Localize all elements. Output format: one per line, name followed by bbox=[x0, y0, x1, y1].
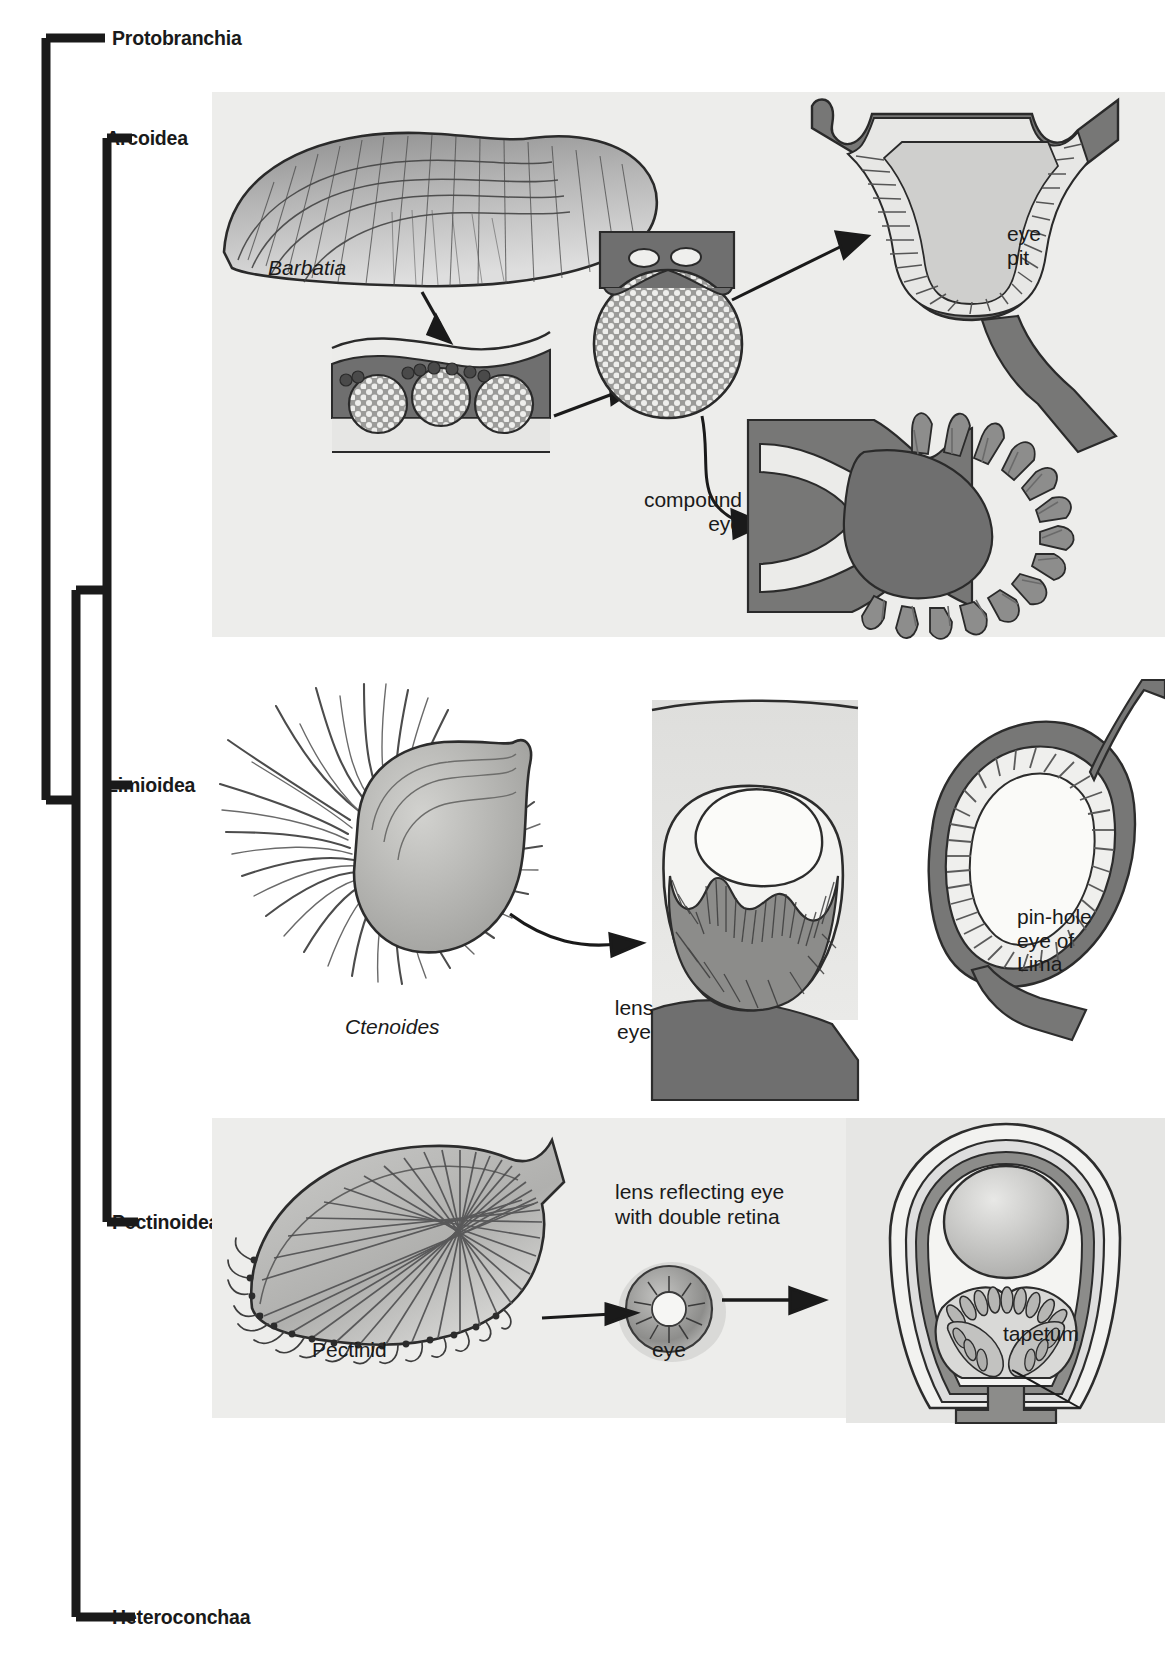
taxon-label-heteroconchaa: Heteroconchaa bbox=[112, 1606, 250, 1629]
figure-canvas: Protobranchia Arcoidea Limioidea Pectino… bbox=[0, 0, 1165, 1668]
taxon-label-pectinoidea: Pectinoidea bbox=[112, 1211, 219, 1234]
taxon-label-protobranchia: Protobranchia bbox=[112, 27, 242, 50]
pinhole-eye-label: pin-hole eye of Lima bbox=[1017, 905, 1092, 976]
barbatia-label: Barbatia bbox=[268, 256, 346, 280]
file-clam-illustration bbox=[220, 684, 542, 984]
ctenoides-label: Ctenoides bbox=[345, 1015, 440, 1039]
arrow-eye-to-section bbox=[722, 1288, 824, 1313]
eye-pit-cross-section bbox=[812, 100, 1118, 453]
lens-eye-label: lens eye bbox=[594, 996, 674, 1043]
compound-eye-cross-section bbox=[748, 413, 1074, 639]
arrow-ctenoides-to-lenseye bbox=[510, 914, 642, 956]
pinhole-eye-label-text: pin-hole eye of Lima bbox=[1017, 905, 1092, 975]
tapetum-label: tapetum bbox=[1003, 1322, 1079, 1346]
pectinid-label: Pectinid bbox=[312, 1338, 387, 1362]
lens-reflecting-eye-label: lens reflecting eye with double retina bbox=[615, 1180, 784, 1230]
eye-pit-label: eye pit bbox=[1007, 222, 1041, 269]
mantle-cross-section-with-eyes bbox=[332, 332, 550, 452]
scallop-eye-label: eye bbox=[652, 1338, 686, 1362]
compound-eye-surface-illustration bbox=[594, 232, 742, 418]
pinhole-eye-cross-section bbox=[929, 680, 1165, 1040]
pectinoidea-panel-artwork bbox=[212, 1118, 1165, 1423]
compound-eye-label: compound eye bbox=[632, 488, 742, 535]
taxon-label-arcoidea: Arcoidea bbox=[106, 127, 188, 150]
arrow-eyeball-to-eyepit bbox=[732, 232, 868, 300]
lens-eye-cross-section bbox=[652, 700, 858, 1100]
arrow-shell-to-mantle bbox=[422, 292, 450, 342]
taxon-label-limioidea: Limioidea bbox=[106, 774, 195, 797]
arcoidea-panel-artwork bbox=[212, 92, 1165, 652]
scallop-eye-cross-section bbox=[846, 1118, 1165, 1423]
scallop-shell-illustration bbox=[228, 1140, 564, 1363]
